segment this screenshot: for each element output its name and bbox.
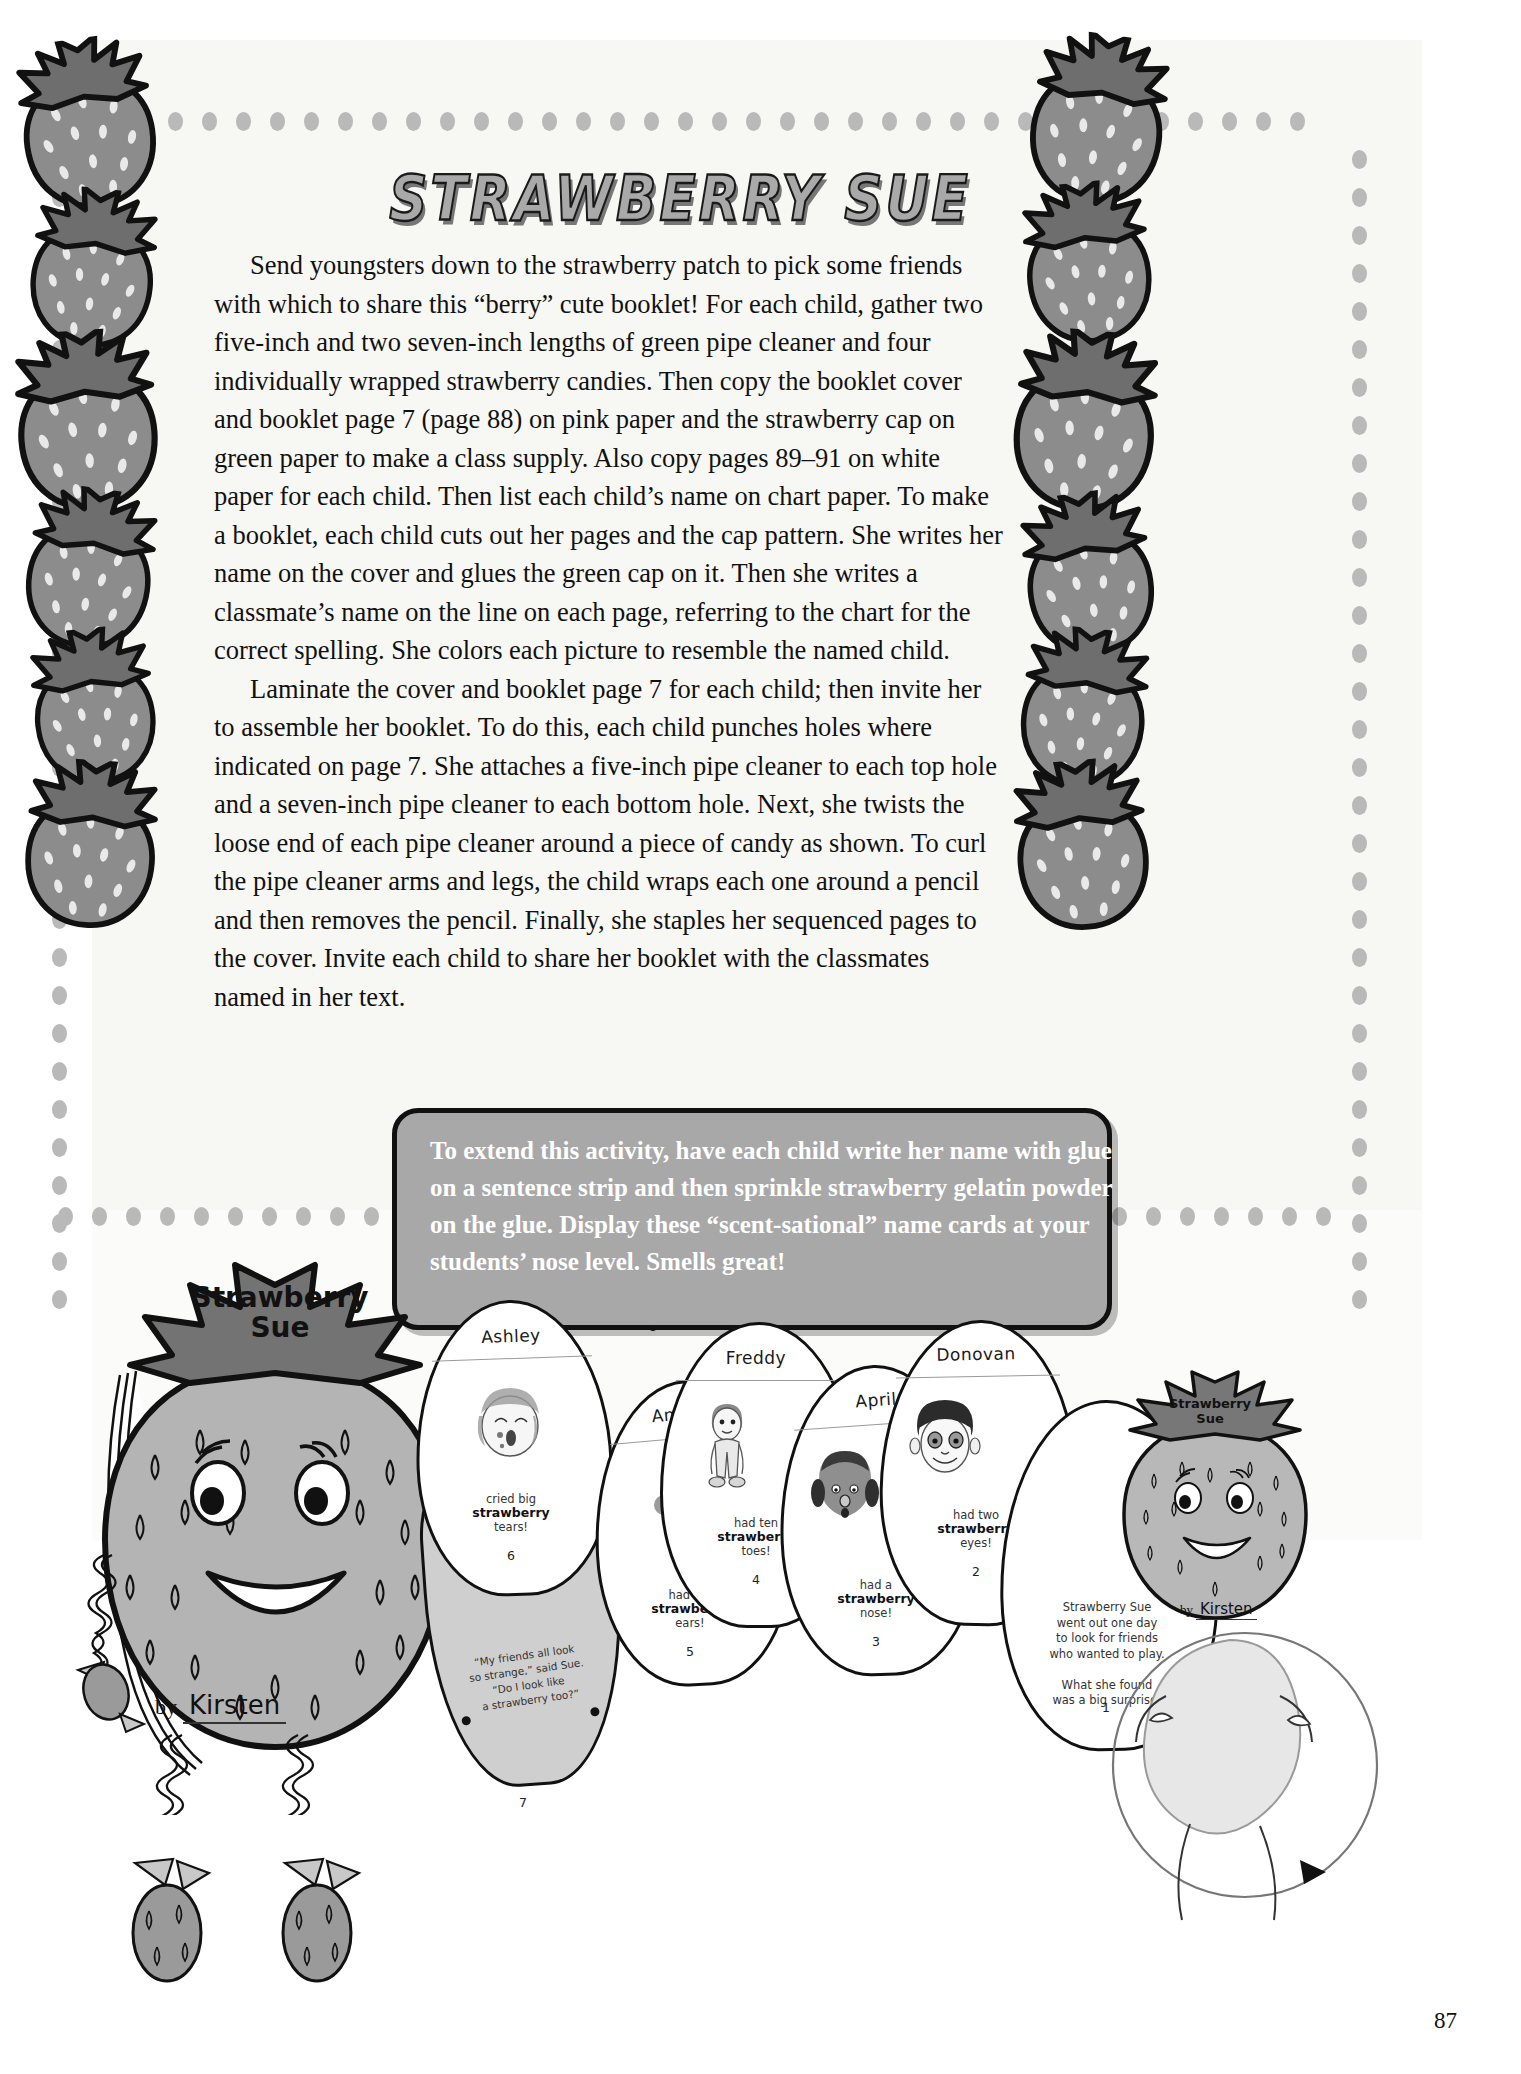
border-dot [950, 112, 965, 131]
booklet-page-2-illustration [903, 1394, 987, 1486]
cover-title-line2: Sue [250, 1311, 309, 1344]
border-dot [610, 112, 625, 131]
candy-foot-left [105, 1855, 235, 2009]
border-dot [1146, 1207, 1161, 1226]
border-dot [1352, 188, 1367, 207]
border-dot [848, 112, 863, 131]
booklet-page-2-caption-bold: strawberry [937, 1521, 1014, 1536]
cover-byline: byKirsten [155, 1690, 286, 1720]
border-dot [1352, 1024, 1367, 1043]
border-dot [338, 112, 353, 131]
border-dot [1352, 796, 1367, 815]
cover-by-label: by [155, 1694, 177, 1719]
border-dot [1352, 1062, 1367, 1081]
border-dot [1352, 834, 1367, 853]
strawberry-icon [16, 755, 166, 936]
border-dot [1352, 720, 1367, 739]
booklet-page-4-name: Freddy [660, 1348, 852, 1368]
cover-title: Strawberry Sue [190, 1283, 370, 1343]
small-cover-title: Strawberry Sue [1135, 1396, 1285, 1426]
border-dot [1352, 530, 1367, 549]
border-dot [1214, 1207, 1229, 1226]
border-dot [916, 112, 931, 131]
border-dot [440, 112, 455, 131]
border-dot [262, 1207, 277, 1226]
border-dot [52, 1214, 67, 1233]
border-dot [1352, 1100, 1367, 1119]
border-dot [1290, 112, 1305, 131]
border-dot [1352, 948, 1367, 967]
border-dot [330, 1207, 345, 1226]
small-cover-title-line1: Strawberry [1169, 1396, 1251, 1411]
border-dot [1352, 644, 1367, 663]
border-dot [1352, 416, 1367, 435]
border-dot [168, 112, 183, 131]
booklet-page-2-caption-pre: had two [953, 1508, 999, 1522]
border-dot [1282, 1207, 1297, 1226]
border-dot [1352, 492, 1367, 511]
booklet-page-2-name: Donovan [880, 1342, 1072, 1365]
booklet-page-6-caption-bold: strawberry [472, 1505, 549, 1520]
booklet-page-3-caption-pre: had a [860, 1578, 892, 1592]
worksheet-page: STRAWBERRY SUE Send youngsters down to t… [0, 0, 1521, 2074]
border-dot [160, 1207, 175, 1226]
border-dot [1352, 568, 1367, 587]
small-cover-byline: byKirsten [1180, 1600, 1257, 1618]
border-dot [52, 1062, 67, 1081]
border-dot [474, 112, 489, 131]
border-dot [1352, 910, 1367, 929]
border-dot [1352, 264, 1367, 283]
booklet-page-6-caption: cried big strawberry tears! [416, 1492, 606, 1534]
booklet-page-6-caption-pre: cried big [486, 1492, 536, 1506]
cover-child-name: Kirsten [183, 1690, 286, 1724]
border-dot [1180, 1207, 1195, 1226]
border-dot [406, 112, 421, 131]
border-dot [92, 1207, 107, 1226]
booklet-page-4-spacer [650, 1325, 656, 1331]
article-body: Send youngsters down to the strawberry p… [214, 246, 1004, 1016]
small-cover-title-line2: Sue [1196, 1411, 1223, 1426]
strawberry-icon [1005, 754, 1160, 940]
border-dot [202, 112, 217, 131]
page-title: STRAWBERRY SUE [300, 163, 1060, 235]
border-dot [236, 112, 251, 131]
booklet-page-3-caption-bold: strawberry [837, 1591, 914, 1606]
border-dot [678, 112, 693, 131]
border-dot [1256, 112, 1271, 131]
page-title-wrap: STRAWBERRY SUE [300, 168, 1060, 229]
booklet-page-3-number: 3 [780, 1634, 972, 1649]
border-dot [1248, 1207, 1263, 1226]
booklet-page-6-caption-post: tears! [494, 1520, 528, 1534]
border-dot [1352, 150, 1367, 169]
cover-title-line1: Strawberry [191, 1281, 368, 1314]
border-dot [1352, 758, 1367, 777]
booklet-page-3-illustration [804, 1445, 886, 1533]
page-number: 87 [1434, 2008, 1457, 2034]
border-dot [644, 112, 659, 131]
border-dot [52, 1176, 67, 1195]
booklet-page-2-caption-post: eyes! [960, 1536, 992, 1550]
border-dot [1188, 112, 1203, 131]
border-dot [814, 112, 829, 131]
border-dot [1352, 378, 1367, 397]
booklet-page-4-caption-post: toes! [741, 1544, 770, 1558]
border-dot [52, 1138, 67, 1157]
border-dot [270, 112, 285, 131]
border-dot [984, 112, 999, 131]
small-cover-child-name: Kirsten [1196, 1600, 1257, 1620]
border-dot [1222, 112, 1237, 131]
border-dot [746, 112, 761, 131]
border-dot [52, 1100, 67, 1119]
border-dot [542, 112, 557, 131]
booklet-page-6-illustration [471, 1380, 549, 1466]
border-dot [1352, 682, 1367, 701]
border-dot [1352, 1176, 1367, 1195]
border-dot [52, 986, 67, 1005]
border-dot [304, 112, 319, 131]
border-dot [228, 1207, 243, 1226]
punch-hole-bottom-right [590, 1707, 600, 1717]
dotted-border-right [1348, 150, 1370, 1190]
booklet-page-6-number: 6 [416, 1548, 606, 1563]
border-dot [1352, 302, 1367, 321]
assembly-diagram [1110, 1600, 1400, 1934]
